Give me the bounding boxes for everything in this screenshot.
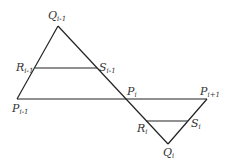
segment-q-prev-q-cur [58, 26, 168, 144]
diagram-lines [0, 0, 230, 168]
label-p-prev: Pi-1 [12, 103, 28, 116]
label-q-cur: Qi [163, 147, 174, 160]
label-q-prev: Qi-1 [48, 10, 66, 23]
label-r-prev: Ri-1 [16, 62, 33, 75]
diagram-canvas: Qi-1 Ri-1 Si-1 Pi-1 Pi Pi+1 Ri Si Qi [0, 0, 230, 168]
label-s-cur: Si [191, 118, 201, 131]
label-p-next: Pi+1 [200, 86, 220, 99]
label-r-cur: Ri [137, 123, 148, 136]
label-p-cur: Pi [127, 86, 137, 99]
label-s-prev: Si-1 [99, 62, 116, 75]
